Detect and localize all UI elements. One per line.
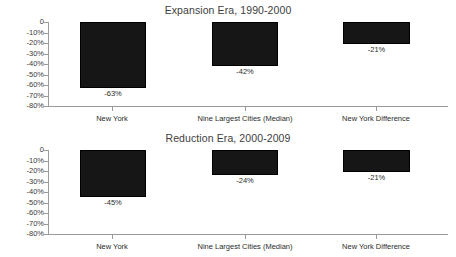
y-tick-label-wrap: -40%	[0, 188, 44, 196]
y-tick-label: -80%	[2, 102, 44, 110]
bar-value-label: -21%	[343, 46, 410, 54]
y-tick-mark	[44, 234, 49, 235]
y-tick-label-wrap: -20%	[0, 167, 44, 175]
category-label-new-york: New York	[62, 114, 162, 123]
y-tick-label: -60%	[2, 209, 44, 217]
y-tick-mark	[44, 33, 49, 34]
y-tick-mark	[44, 192, 49, 193]
y-tick-label-wrap: 0	[0, 18, 44, 26]
x-tick-mark	[245, 106, 246, 111]
y-tick-label-wrap: -50%	[0, 199, 44, 207]
y-tick-mark	[44, 96, 49, 97]
y-tick-label-wrap: -10%	[0, 157, 44, 165]
y-tick-label-wrap: -30%	[0, 50, 44, 58]
y-tick-mark	[44, 64, 49, 65]
category-label-nine-largest-cities: Nine Largest Cities (Median)	[180, 114, 310, 123]
plot-area: 0 -10% -20% -30% -40% -50% -60% -70% -80…	[0, 128, 456, 256]
x-tick-mark	[376, 234, 377, 239]
y-tick-label: -20%	[2, 167, 44, 175]
y-tick-mark	[44, 22, 49, 23]
y-tick-label: -10%	[2, 29, 44, 37]
bar-new-york-difference	[343, 22, 410, 44]
y-tick-mark	[44, 85, 49, 86]
y-tick-label-wrap: -50%	[0, 71, 44, 79]
y-tick-label-wrap: -70%	[0, 220, 44, 228]
y-tick-label: -20%	[2, 39, 44, 47]
y-tick-mark	[44, 43, 49, 44]
y-tick-label-wrap: -60%	[0, 209, 44, 217]
y-tick-label: -70%	[2, 220, 44, 228]
y-tick-label-wrap: -70%	[0, 92, 44, 100]
y-tick-mark	[44, 150, 49, 151]
y-tick-label: -40%	[2, 60, 44, 68]
y-tick-label-wrap: -30%	[0, 178, 44, 186]
y-tick-label-wrap: 0	[0, 146, 44, 154]
y-tick-label: -30%	[2, 50, 44, 58]
category-label-new-york-difference: New York Difference	[319, 114, 433, 123]
y-tick-label: -80%	[2, 230, 44, 238]
y-tick-mark	[44, 161, 49, 162]
bar-new-york	[80, 22, 146, 88]
y-tick-label: -60%	[2, 81, 44, 89]
category-label-new-york-difference: New York Difference	[319, 242, 433, 251]
bar-nine-largest-cities	[212, 22, 278, 66]
bar-new-york	[80, 150, 146, 197]
bar-value-label: -42%	[212, 68, 278, 76]
chart-panel-reduction-era: Reduction Era, 2000-2009 0 -10% -20% -30…	[0, 128, 456, 256]
y-tick-label-wrap: -80%	[0, 102, 44, 110]
y-tick-label-wrap: -60%	[0, 81, 44, 89]
y-tick-mark	[44, 224, 49, 225]
bar-value-label: -21%	[343, 174, 410, 182]
x-axis-line	[48, 234, 448, 235]
y-tick-label: -30%	[2, 178, 44, 186]
y-tick-label: 0	[2, 146, 44, 154]
y-tick-label: 0	[2, 18, 44, 26]
bar-value-label: -63%	[80, 90, 146, 98]
y-tick-mark	[44, 106, 49, 107]
y-tick-label: -40%	[2, 188, 44, 196]
y-tick-label: -10%	[2, 157, 44, 165]
y-tick-label: -50%	[2, 199, 44, 207]
x-tick-mark	[245, 234, 246, 239]
plot-area: 0 -10% -20% -30% -40% -50% -60% -70% -80…	[0, 0, 456, 128]
bar-value-label: -45%	[80, 199, 146, 207]
y-tick-mark	[44, 213, 49, 214]
y-tick-label-wrap: -80%	[0, 230, 44, 238]
category-label-new-york: New York	[62, 242, 162, 251]
y-tick-label: -70%	[2, 92, 44, 100]
category-label-nine-largest-cities: Nine Largest Cities (Median)	[180, 242, 310, 251]
y-tick-mark	[44, 203, 49, 204]
y-tick-mark	[44, 171, 49, 172]
x-tick-mark	[376, 106, 377, 111]
y-tick-label-wrap: -20%	[0, 39, 44, 47]
x-tick-mark	[112, 106, 113, 111]
y-tick-label-wrap: -40%	[0, 60, 44, 68]
chart-panel-expansion-era: Expansion Era, 1990-2000 0 -10% -20% -30…	[0, 0, 456, 128]
y-tick-mark	[44, 54, 49, 55]
bar-nine-largest-cities	[212, 150, 278, 175]
x-axis-line	[48, 106, 448, 107]
bar-new-york-difference	[343, 150, 410, 172]
chart-page: Expansion Era, 1990-2000 0 -10% -20% -30…	[0, 0, 456, 257]
y-tick-mark	[44, 75, 49, 76]
y-tick-label-wrap: -10%	[0, 29, 44, 37]
bar-value-label: -24%	[212, 177, 278, 185]
y-tick-label: -50%	[2, 71, 44, 79]
x-tick-mark	[112, 234, 113, 239]
y-tick-mark	[44, 182, 49, 183]
